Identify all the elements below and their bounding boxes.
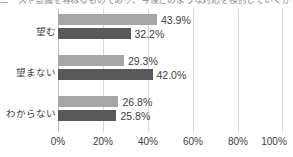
- bar-value-label: 32.2%: [135, 28, 165, 39]
- xtick-label-40: 40%: [128, 136, 168, 148]
- xtick-label-20: 20%: [83, 136, 123, 148]
- bar-series-1[interactable]: [58, 14, 157, 25]
- category-label-nozomu: 望む: [0, 26, 56, 37]
- bar-value-label: 25.8%: [121, 110, 151, 121]
- bar-value-label: 29.3%: [128, 55, 158, 66]
- xtick-label-60: 60%: [173, 136, 213, 148]
- bar-series-1[interactable]: [58, 55, 124, 66]
- bar-value-label: 26.8%: [123, 96, 153, 107]
- clipped-heading-text: ニーズや意識を尋ねるものであり、今後どのような対応を検討していくか: [0, 0, 293, 7]
- bar-value-label: 43.9%: [161, 14, 191, 25]
- xtick-label-80: 80%: [218, 136, 258, 148]
- bar-value-label: 42.0%: [157, 69, 187, 80]
- plot-area: 43.9% 32.2% 29.3% 42.0% 26.8%: [58, 9, 283, 132]
- xtick-label-0: 0%: [38, 136, 78, 148]
- bar-group-nozomanai: 29.3% 42.0%: [58, 50, 283, 91]
- category-label-wakaranai: わからない: [0, 108, 56, 119]
- bar-series-2[interactable]: [58, 69, 153, 80]
- xtick-label-100: 100%: [254, 136, 293, 148]
- bar-group-nozomu: 43.9% 32.2%: [58, 9, 283, 50]
- bar-group-wakaranai: 26.8% 25.8%: [58, 91, 283, 132]
- bar-series-1[interactable]: [58, 96, 118, 107]
- bar-series-2[interactable]: [58, 110, 116, 121]
- bar-chart: ニーズや意識を尋ねるものであり、今後どのような対応を検討していくか 43.9% …: [0, 0, 293, 157]
- category-label-nozomanai: 望まない: [0, 67, 56, 78]
- bar-series-2[interactable]: [58, 28, 131, 39]
